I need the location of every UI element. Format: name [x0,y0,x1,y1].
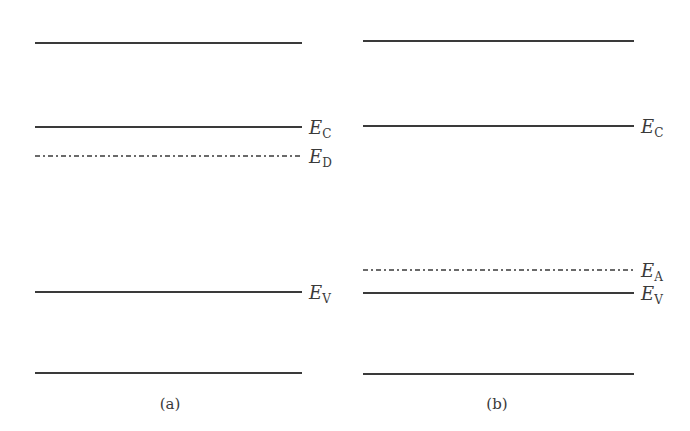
valence-band-label: EV [640,283,663,307]
energy-band-diagram: ECEDEV(a)ECEAEV(b) [0,0,690,431]
panel-caption-b: (b) [486,395,507,413]
valence-band-label: EV [308,282,331,306]
panel-b: ECEAEV(b) [363,41,663,413]
conduction-band-label: EC [640,116,663,140]
panel-a: ECEDEV(a) [35,43,332,413]
conduction-band-label: EC [308,117,331,141]
donor-level-label: ED [308,146,332,170]
panel-caption-a: (a) [160,395,181,413]
acceptor-level-label: EA [640,260,663,284]
